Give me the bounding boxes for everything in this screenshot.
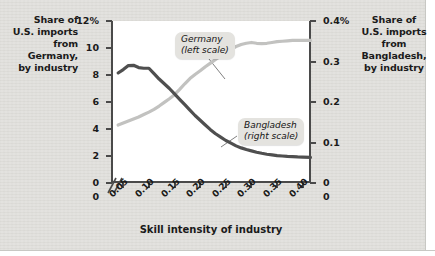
left-tick — [106, 74, 112, 76]
chart-figure: Share ofU.S. importsfromGermany,by indus… — [0, 0, 435, 256]
left-tick-label: 6 — [69, 96, 99, 107]
left-tick-label: 12% — [69, 15, 99, 26]
left-tick — [106, 155, 112, 157]
left-tick-label: 10 — [69, 42, 99, 53]
right-tick — [310, 61, 316, 63]
right-tick — [310, 142, 316, 144]
right-tick-label: 0.3 — [323, 56, 357, 67]
right-axis-caption: Share ofU.S. importsfromBangladesh,by in… — [358, 14, 430, 74]
x-axis-title: Skill intensity of industry — [111, 224, 311, 235]
left-tick-label: 2 — [69, 150, 99, 161]
x-origin-label-left: 0 — [69, 191, 99, 202]
right-tick — [310, 182, 316, 184]
left-tick — [106, 47, 112, 49]
left-tick — [106, 20, 112, 22]
x-origin-label-right: 0 — [323, 191, 357, 202]
right-tick-label: 0.2 — [323, 96, 357, 107]
left-tick — [106, 101, 112, 103]
callout-germany: Germany(left scale) — [175, 32, 235, 59]
left-tick-label: 4 — [69, 123, 99, 134]
right-tick-label: 0.4% — [323, 15, 357, 26]
left-tick-label: 8 — [69, 69, 99, 80]
left-tick — [106, 128, 112, 130]
right-tick — [310, 20, 316, 22]
right-tick-label: 0 — [323, 177, 357, 188]
right-tick — [310, 101, 316, 103]
callout-bangladesh: Bangladesh(right scale) — [238, 118, 304, 145]
plot-area: Germany(left scale) Bangladesh(right sca… — [111, 21, 311, 183]
page-edge-bottom — [0, 250, 435, 256]
right-tick-label: 0.1 — [323, 137, 357, 148]
left-tick-label: 0 — [69, 177, 99, 188]
left-axis-caption: Share ofU.S. importsfromGermany,by indus… — [4, 14, 78, 74]
